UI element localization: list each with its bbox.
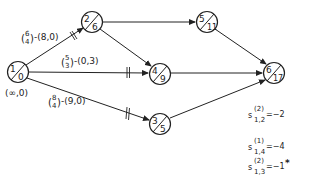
- node-3: 3 5: [150, 114, 171, 135]
- svg-text:5: 5: [65, 54, 69, 62]
- edge-1-2-pair: -(8,0): [34, 32, 59, 42]
- node-3-top: 3: [152, 116, 158, 126]
- node-5-top: 5: [199, 14, 205, 24]
- edge-5-6: [215, 29, 266, 64]
- optimal-star: *: [285, 158, 290, 168]
- node-4: 4 9: [150, 64, 171, 85]
- node-1-top: 1: [10, 64, 16, 74]
- edge-1-3-pair: -(9,0): [61, 96, 86, 106]
- edge-2-4: [100, 29, 151, 66]
- annotation-s14: s (1) 1,4 =−4: [248, 137, 285, 156]
- svg-text:1,2: 1,2: [254, 116, 265, 124]
- node-4-bottom: 9: [160, 74, 166, 84]
- svg-text:=−4: =−4: [266, 142, 285, 151]
- svg-text:(1): (1): [254, 137, 264, 145]
- node-4-top: 4: [152, 66, 158, 76]
- block-mark-1-3: [126, 107, 130, 120]
- network-diagram: 1 0 2 6 5 11 4 9 3 5 6 17 ( 6 4 ) -(8,0): [0, 0, 310, 191]
- svg-text:8: 8: [52, 94, 56, 102]
- edge-label-1-4: ( 5 3 ) -(0,3): [61, 54, 99, 70]
- node-2: 2 6: [82, 12, 103, 33]
- node-5: 5 11: [197, 12, 218, 33]
- svg-text:(2): (2): [254, 157, 264, 165]
- node-6-top: 6: [266, 65, 272, 75]
- node-6-bottom: 17: [273, 74, 283, 83]
- svg-text:s: s: [248, 111, 252, 120]
- node-1-bottom: 0: [18, 72, 24, 82]
- node-2-bottom: 6: [92, 22, 98, 32]
- svg-text:(2): (2): [254, 105, 264, 113]
- svg-text:s: s: [248, 143, 252, 152]
- edge-label-1-2: ( 6 4 ) -(8,0): [21, 30, 59, 46]
- edge-label-1-3: ( 8 4 ) -(9,0): [48, 94, 86, 110]
- edge-1-4-pair: -(0,3): [74, 56, 99, 66]
- svg-text:=−1: =−1: [266, 162, 285, 171]
- node-2-top: 2: [84, 14, 90, 24]
- svg-text:1,3: 1,3: [254, 168, 265, 176]
- annotation-s12: s (2) 1,2 =−2: [248, 105, 285, 124]
- node-1: 1 0: [8, 62, 29, 83]
- edge-1-3: [27, 78, 149, 120]
- node-3-bottom: 5: [160, 124, 166, 134]
- svg-text:=−2: =−2: [266, 110, 285, 119]
- svg-text:1,4: 1,4: [254, 148, 266, 156]
- source-label: (∞,0): [5, 88, 28, 98]
- node-5-bottom: 11: [207, 23, 217, 32]
- svg-text:3: 3: [65, 62, 69, 70]
- svg-text:s: s: [248, 163, 252, 172]
- node-6: 6 17: [264, 63, 285, 84]
- edge-1-4: [29, 72, 148, 73]
- annotation-s13: s (2) 1,3 =−1 *: [248, 157, 290, 176]
